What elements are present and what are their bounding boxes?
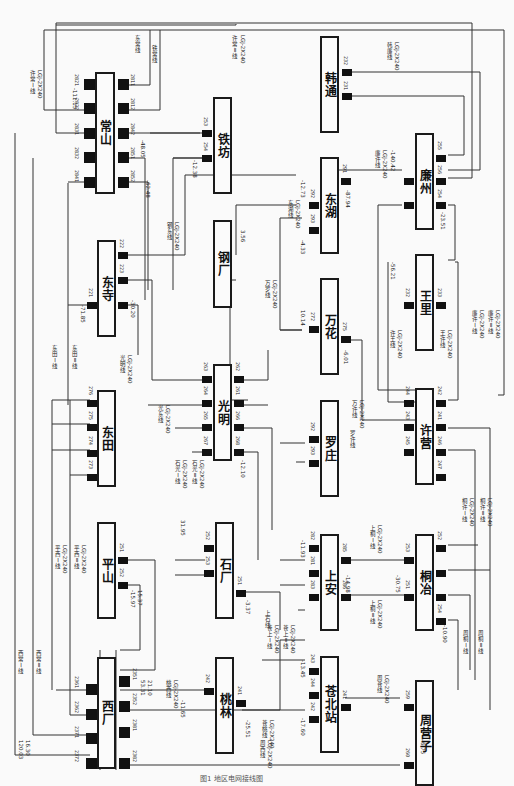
breaker-icon[interactable] [234,449,244,456]
station-hantong[interactable]: 韩通 [320,36,339,133]
breaker-icon[interactable] [87,450,97,457]
breaker-icon[interactable] [87,424,97,431]
breaker-icon[interactable] [309,545,319,552]
breaker-icon[interactable] [341,336,351,343]
station-taolin[interactable]: 桃林 [215,657,234,754]
breaker-icon[interactable] [118,582,128,589]
breaker-icon[interactable] [119,758,130,769]
breaker-icon[interactable] [118,252,128,259]
breaker-icon[interactable] [204,570,214,577]
breaker-icon[interactable] [436,570,446,577]
breaker-icon[interactable] [309,202,319,209]
breaker-icon[interactable] [87,400,97,407]
station-wangli[interactable]: 王里 [415,254,434,351]
breaker-icon[interactable] [309,716,319,723]
breaker-icon[interactable] [86,758,97,769]
breaker-icon[interactable] [202,155,212,162]
breaker-icon[interactable] [404,424,414,431]
breaker-icon[interactable] [436,449,446,456]
breaker-icon[interactable] [84,79,95,90]
breaker-icon[interactable] [119,676,130,687]
breaker-icon[interactable] [118,79,129,90]
breaker-icon[interactable] [309,326,319,333]
station-gangchang[interactable]: 钢厂 [213,220,232,308]
breaker-icon[interactable] [118,103,129,114]
breaker-icon[interactable] [84,177,95,188]
breaker-icon[interactable] [404,400,414,407]
breaker-icon[interactable] [202,424,212,431]
breaker-icon[interactable] [234,400,244,407]
breaker-icon[interactable] [436,178,446,185]
breaker-icon[interactable] [234,376,244,383]
station-tiefang[interactable]: 铁坊 [213,97,232,194]
breaker-icon[interactable] [202,130,212,137]
breaker-icon[interactable] [341,178,351,185]
breaker-icon[interactable] [436,202,446,209]
breaker-icon[interactable] [236,700,246,707]
breaker-icon[interactable] [342,93,352,100]
breaker-icon[interactable] [84,152,95,163]
breaker-icon[interactable] [309,594,319,601]
station-xichang[interactable]: 西厂 [97,657,116,769]
breaker-icon[interactable] [436,594,446,601]
breaker-icon[interactable] [234,424,244,431]
station-cangbeizhan[interactable]: 苍北站 [320,656,339,753]
breaker-icon[interactable] [309,668,319,675]
breaker-icon[interactable] [119,727,130,738]
breaker-icon[interactable] [404,449,414,456]
station-shichang[interactable]: 石厂 [215,522,234,619]
breaker-icon[interactable] [87,474,97,481]
breaker-icon[interactable] [118,557,128,564]
breaker-icon[interactable] [436,400,446,407]
breaker-icon[interactable] [436,302,446,309]
breaker-icon[interactable] [404,594,414,601]
breaker-icon[interactable] [341,557,351,564]
breaker-icon[interactable] [118,302,128,309]
breaker-icon[interactable] [436,424,446,431]
breaker-icon[interactable] [204,545,214,552]
station-tongye[interactable]: 桐冶 [415,534,434,631]
breaker-icon[interactable] [202,449,212,456]
breaker-icon[interactable] [118,177,129,188]
breaker-icon[interactable] [436,474,446,481]
station-donghu[interactable]: 东湖 [320,157,339,254]
station-wanhua[interactable]: 万花 [320,278,339,375]
station-dongtian[interactable]: 东田 [97,390,116,487]
station-changshan[interactable]: 常山 [95,72,115,194]
breaker-icon[interactable] [84,128,95,139]
breaker-icon[interactable] [436,155,446,162]
breaker-icon[interactable] [204,688,214,695]
breaker-icon[interactable] [309,460,319,467]
breaker-icon[interactable] [86,733,97,744]
breaker-icon[interactable] [87,302,97,309]
breaker-icon[interactable] [404,202,414,209]
breaker-icon[interactable] [436,545,446,552]
breaker-icon[interactable] [118,277,128,284]
station-dongsi[interactable]: 东寺 [97,240,116,337]
breaker-icon[interactable] [404,704,414,711]
breaker-icon[interactable] [404,302,414,309]
breaker-icon[interactable] [341,594,351,601]
breaker-icon[interactable] [309,227,319,234]
station-xuying[interactable]: 许营 [415,388,434,485]
breaker-icon[interactable] [404,557,414,564]
breaker-icon[interactable] [202,376,212,383]
station-zhouyingzi[interactable]: 周营子 [415,680,434,786]
breaker-icon[interactable] [118,152,129,163]
breaker-icon[interactable] [202,400,212,407]
breaker-icon[interactable] [404,178,414,185]
breaker-icon[interactable] [436,618,446,625]
breaker-icon[interactable] [309,570,319,577]
breaker-icon[interactable] [342,69,352,76]
breaker-icon[interactable] [84,103,95,114]
breaker-icon[interactable] [309,692,319,699]
station-shangan[interactable]: 上安 [320,534,339,631]
breaker-icon[interactable] [118,128,129,139]
station-luozhuang[interactable]: 罗庄 [320,400,339,497]
breaker-icon[interactable] [309,436,319,443]
breaker-icon[interactable] [236,590,246,597]
station-lianzhou[interactable]: 廉州 [415,133,434,230]
breaker-icon[interactable] [86,684,97,695]
breaker-icon[interactable] [119,701,130,712]
station-pingshan[interactable]: 平山 [97,522,116,619]
